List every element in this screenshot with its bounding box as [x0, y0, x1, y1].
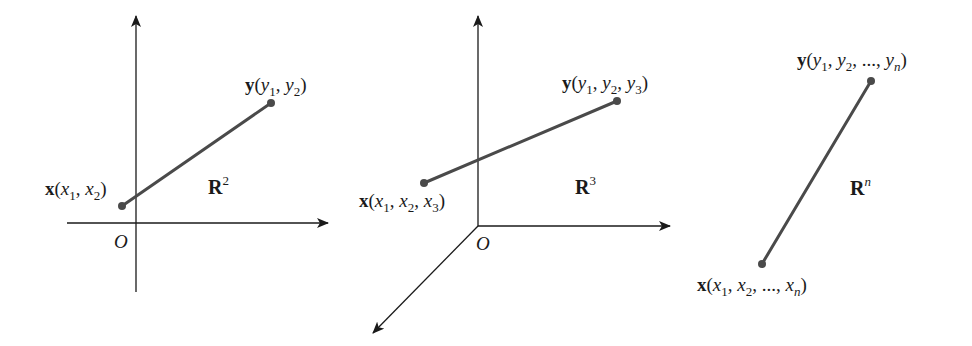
point-y-label: y(y1, y2) — [245, 74, 307, 99]
point-y-label: y(y1, y2, y3) — [562, 72, 648, 97]
point-x — [420, 179, 428, 187]
origin-label: O — [114, 231, 128, 252]
panel-r2: O x(x1, x2) y(y1, y2) R2 — [45, 16, 328, 292]
segment-xy — [424, 101, 617, 183]
point-x — [758, 260, 766, 268]
panel-rn: x(x1, x2, ..., xn) y(y1, y2, ..., yn) Rn — [697, 49, 907, 299]
point-y-label: y(y1, y2, ..., yn) — [797, 49, 907, 74]
point-y — [267, 99, 275, 107]
segment-xy — [762, 81, 871, 264]
point-y — [613, 97, 621, 105]
point-x — [118, 202, 126, 210]
segment-diagram: O x(x1, x2) y(y1, y2) R2 O x(x1, x2, x3)… — [0, 0, 972, 346]
segment-xy — [122, 103, 271, 206]
point-y — [867, 77, 875, 85]
panel-r3: O x(x1, x2, x3) y(y1, y2, y3) R3 — [359, 16, 670, 333]
depth-axis — [373, 226, 478, 333]
space-label-r3: R3 — [575, 173, 596, 198]
origin-label: O — [476, 233, 490, 254]
point-x-label: x(x1, x2, ..., xn) — [697, 274, 807, 299]
space-label-r2: R2 — [208, 173, 229, 198]
point-x-label: x(x1, x2) — [45, 178, 107, 203]
point-x-label: x(x1, x2, x3) — [359, 190, 445, 215]
space-label-rn: Rn — [850, 174, 871, 199]
